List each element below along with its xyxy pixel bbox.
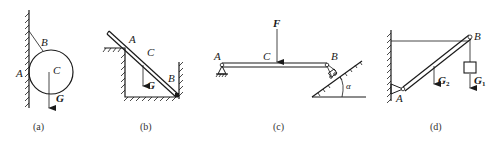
caption-b: (b) (140, 121, 152, 133)
weight-box (464, 62, 476, 73)
label-b: B (41, 36, 48, 48)
label-g2-subscript: 2 (446, 80, 450, 88)
caption-a: (a) (33, 121, 44, 133)
label-g: G (56, 92, 64, 104)
label-f: F (272, 17, 281, 29)
figure-d: A B G 2 G 1 (d) (387, 30, 486, 133)
label-a: A (15, 67, 23, 79)
label-b: B (474, 30, 481, 42)
angle-arc (340, 77, 343, 97)
figure-b: A C B G (b) (103, 31, 183, 133)
label-b: B (168, 72, 175, 84)
label-c: C (263, 50, 271, 62)
statics-diagrams: B A C G (a) (0, 0, 496, 146)
figure-a: B A C G (a) (15, 10, 73, 133)
label-b: B (331, 50, 338, 62)
roller-support-b (325, 63, 337, 78)
label-a: A (395, 92, 403, 104)
label-alpha: α (346, 81, 351, 91)
sphere (29, 50, 73, 94)
label-g1: G (474, 74, 482, 86)
pin-support-a (216, 63, 228, 77)
label-g2: G (438, 74, 446, 86)
label-a: A (128, 33, 136, 45)
label-a: A (213, 50, 221, 62)
caption-c: (c) (273, 121, 284, 133)
caption-d: (d) (430, 121, 442, 133)
label-g1-subscript: 1 (482, 80, 486, 88)
label-c: C (147, 46, 155, 58)
figure-c: A C F B α (c) (213, 17, 366, 133)
label-g: G (147, 79, 155, 91)
pit-outline (104, 48, 178, 97)
label-c: C (53, 64, 61, 76)
rod (107, 31, 179, 97)
beam (222, 63, 327, 67)
